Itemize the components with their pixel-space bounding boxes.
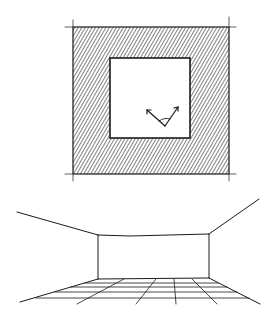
ceiling-left-edge — [17, 212, 98, 235]
floor-right-edge — [209, 278, 260, 304]
back-wall-top — [98, 234, 209, 236]
ceiling-right-edge — [209, 199, 259, 234]
architectural-sketch — [0, 0, 274, 324]
plan-view — [65, 17, 236, 181]
perspective-view — [17, 199, 260, 304]
floor-left-edge — [20, 279, 98, 302]
floor-grid — [36, 279, 249, 304]
hatched-walls — [73, 27, 229, 174]
